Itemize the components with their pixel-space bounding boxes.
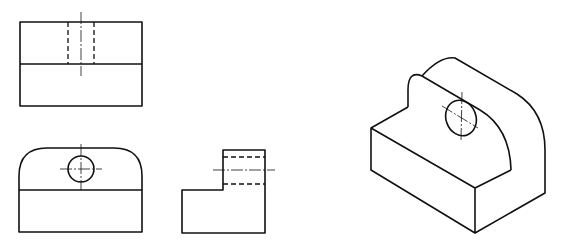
isometric-view	[371, 58, 545, 233]
front-view	[19, 144, 142, 232]
technical-drawing	[0, 0, 574, 249]
top-view	[20, 12, 142, 106]
side-view	[182, 150, 275, 233]
